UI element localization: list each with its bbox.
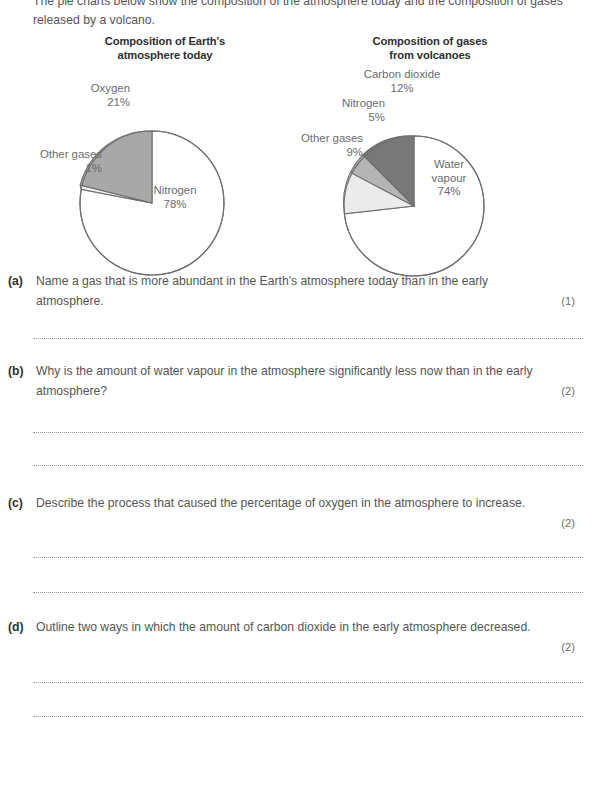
chart-title-volcano-line1: Composition of gases xyxy=(373,35,488,47)
pie-label-oxygen-earth: Oxygen 21% xyxy=(22,82,130,109)
question-b-marks: (2) xyxy=(561,382,575,402)
question-a-label: (a) xyxy=(8,272,34,292)
pie-label-nitrogen-volcano-name: Nitrogen xyxy=(342,97,385,109)
chart-volcano-gases: Composition of gases from volcanoes Carb… xyxy=(300,34,560,258)
chart-title-earth: Composition of Earth's atmosphere today xyxy=(40,34,290,62)
pie-label-other-gases-earth: Other gases 1% xyxy=(0,148,102,175)
pie-label-nitrogen-earth-name: Nitrogen xyxy=(153,184,196,196)
answer-line-a-1[interactable] xyxy=(33,338,583,340)
chart-title-volcano-line2: from volcanoes xyxy=(300,48,560,62)
question-d-row: (d) Outline two ways in which the amount… xyxy=(8,618,588,638)
question-b: (b) Why is the amount of water vapour in… xyxy=(8,362,588,401)
question-b-label: (b) xyxy=(8,362,34,382)
question-b-text: Why is the amount of water vapour in the… xyxy=(36,362,536,401)
question-b-row: (b) Why is the amount of water vapour in… xyxy=(8,362,588,401)
question-c-label: (c) xyxy=(8,494,34,514)
pie-label-nitrogen-volcano-pct: 5% xyxy=(290,111,385,125)
pie-charts-figure: Composition of Earth's atmosphere today … xyxy=(0,34,595,266)
answer-line-c-2[interactable] xyxy=(33,592,583,594)
pie-label-other-gases-earth-name: Other gases xyxy=(40,148,102,160)
pie-label-other-gases-earth-pct: 1% xyxy=(0,162,102,176)
question-a-marks: (1) xyxy=(561,292,575,312)
question-d-label: (d) xyxy=(8,618,34,638)
answer-line-b-1[interactable] xyxy=(33,432,583,434)
question-d-text: Outline two ways in which the amount of … xyxy=(36,618,536,638)
pie-label-water-vapour-volcano-pct: 74% xyxy=(404,185,494,199)
question-d-marks: (2) xyxy=(561,638,575,658)
answer-line-d-1[interactable] xyxy=(33,682,583,684)
pie-label-water-vapour-volcano-name: Water xyxy=(434,158,464,170)
pie-label-carbon-dioxide-volcano-pct: 12% xyxy=(322,82,482,96)
pie-label-carbon-dioxide-volcano: Carbon dioxide 12% xyxy=(322,68,482,95)
pie-label-water-vapour-volcano: Water vapour 74% xyxy=(404,158,494,199)
question-c-marks: (2) xyxy=(561,514,575,534)
question-a: (a) Name a gas that is more abundant in … xyxy=(8,272,588,311)
question-a-text: Name a gas that is more abundant in the … xyxy=(36,272,536,311)
pie-label-water-vapour-volcano-name2: vapour xyxy=(404,172,494,186)
question-c-row: (c) Describe the process that caused the… xyxy=(8,494,588,514)
chart-title-earth-line1: Composition of Earth's xyxy=(105,35,225,47)
pie-label-oxygen-earth-pct: 21% xyxy=(22,96,130,110)
pie-label-other-gases-volcano-name: Other gases xyxy=(301,132,363,144)
pie-label-other-gases-volcano-pct: 9% xyxy=(248,146,363,160)
question-d: (d) Outline two ways in which the amount… xyxy=(8,618,588,638)
pie-area-earth: Oxygen 21% Other gases 1% Nitrogen 78% xyxy=(40,62,290,258)
answer-line-b-2[interactable] xyxy=(33,465,583,467)
pie-label-nitrogen-earth: Nitrogen 78% xyxy=(130,184,220,211)
pie-label-oxygen-earth-name: Oxygen xyxy=(91,82,130,94)
question-c-text: Describe the process that caused the per… xyxy=(36,494,536,514)
pie-label-carbon-dioxide-volcano-name: Carbon dioxide xyxy=(364,68,441,80)
intro-paragraph: The pie charts below show the compositio… xyxy=(33,0,573,30)
chart-title-volcano: Composition of gases from volcanoes xyxy=(300,34,560,62)
pie-label-other-gases-volcano: Other gases 9% xyxy=(248,132,363,159)
answer-line-d-2[interactable] xyxy=(33,716,583,718)
answer-line-c-1[interactable] xyxy=(33,557,583,559)
question-c: (c) Describe the process that caused the… xyxy=(8,494,588,514)
pie-label-nitrogen-volcano: Nitrogen 5% xyxy=(290,97,385,124)
pie-area-volcano: Carbon dioxide 12% Nitrogen 5% Other gas… xyxy=(300,62,560,258)
question-a-row: (a) Name a gas that is more abundant in … xyxy=(8,272,588,311)
pie-label-nitrogen-earth-pct: 78% xyxy=(130,198,220,212)
chart-title-earth-line2: atmosphere today xyxy=(40,48,290,62)
